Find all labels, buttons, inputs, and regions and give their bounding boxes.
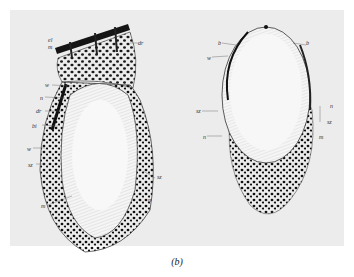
label-n-right: n	[148, 197, 151, 203]
label-n-upper: n	[40, 95, 43, 101]
figure-caption: (b)	[0, 256, 354, 267]
label-dr-mid: dr	[36, 108, 41, 114]
label-bi: bi	[32, 123, 37, 129]
label-sz-left: sz	[28, 162, 33, 168]
left-specimen	[40, 24, 153, 252]
right-specimen	[222, 25, 313, 214]
label-m-top: m	[48, 44, 52, 50]
label-w-lower: w	[27, 146, 31, 152]
label-n-left: n	[203, 134, 206, 140]
label-el: el	[48, 37, 52, 43]
label-m-bottom: m	[41, 203, 45, 209]
label-dr-top: dr	[138, 40, 143, 46]
label-sz-right: sz	[327, 119, 332, 125]
label-sz-left: sz	[196, 108, 201, 114]
label-n-right: n	[330, 103, 333, 109]
label-b-left: b	[218, 40, 221, 46]
label-b-right: b	[306, 40, 309, 46]
label-m: m	[319, 134, 323, 140]
label-sz-right: sz	[157, 174, 162, 180]
label-w: w	[207, 55, 211, 61]
histology-illustration	[0, 0, 354, 277]
label-w: w	[45, 82, 49, 88]
